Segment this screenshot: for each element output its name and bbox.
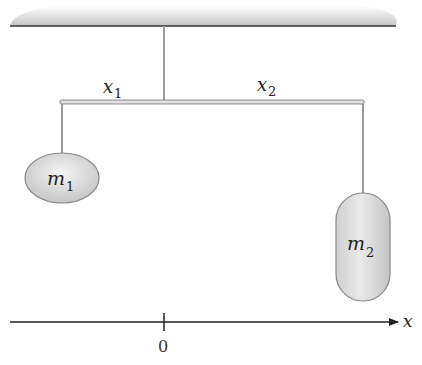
svg-text:1: 1: [114, 86, 122, 101]
origin-label: 0: [158, 337, 168, 356]
x2-label: x 2: [257, 74, 276, 99]
mass-m1: m 1: [25, 153, 99, 203]
ceiling-shading: [10, 6, 397, 26]
mobile-rod: [60, 100, 364, 104]
svg-text:2: 2: [268, 84, 276, 99]
x1-label: x 1: [103, 76, 122, 101]
x-axis-label: x: [403, 311, 413, 331]
ceiling: [10, 6, 397, 26]
svg-text:x: x: [103, 76, 113, 97]
svg-text:2: 2: [366, 245, 374, 260]
svg-text:m: m: [347, 232, 365, 254]
svg-text:1: 1: [66, 179, 74, 194]
svg-text:m: m: [47, 167, 65, 189]
svg-text:x: x: [257, 74, 267, 95]
x-axis: 0 x: [10, 311, 413, 356]
diagram-canvas: x 1 x 2 m 1 m 2 0 x: [0, 0, 422, 365]
mass-m2: m 2: [336, 193, 390, 301]
